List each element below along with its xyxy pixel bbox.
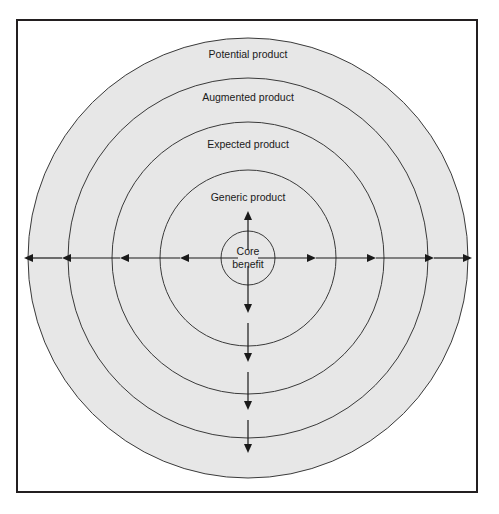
- figure-root: Potential product Augmented product Expe…: [0, 0, 499, 514]
- label-potential-product: Potential product: [209, 48, 288, 60]
- label-core-benefit-line1: Core: [237, 245, 260, 257]
- label-expected-product: Expected product: [207, 138, 289, 150]
- five-product-levels-diagram: Potential product Augmented product Expe…: [0, 0, 499, 514]
- label-core-benefit-line2: benefit: [232, 258, 264, 270]
- label-generic-product: Generic product: [211, 191, 286, 203]
- label-augmented-product: Augmented product: [202, 91, 294, 103]
